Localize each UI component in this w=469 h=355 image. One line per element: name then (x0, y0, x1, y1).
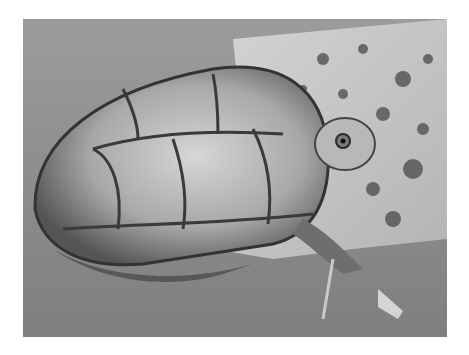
turtle-illustration (23, 19, 447, 337)
floating-leaf (378, 289, 403, 319)
turtle-photo: Turtle on a log (23, 19, 447, 337)
